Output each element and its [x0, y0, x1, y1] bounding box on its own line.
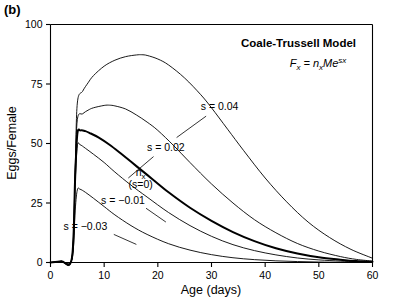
curve-sublabel-2: (s=0)	[129, 178, 153, 190]
y-tick-label: 25	[31, 197, 43, 209]
x-tick-label: 60	[367, 269, 379, 281]
formula-eq: =	[300, 57, 313, 69]
y-tick-label: 50	[31, 137, 43, 149]
y-axis-ticks: 0255075100	[25, 18, 51, 268]
y-tick-label: 0	[37, 256, 43, 268]
y-axis-title: Eggs/Female	[5, 106, 19, 180]
leader-line-3	[146, 208, 166, 222]
curve-labels: s = 0.04s = 0.02nx(s=0)s = −0.01s = −0.0…	[63, 100, 238, 232]
y-tick-label: 100	[25, 18, 43, 30]
x-tick-label: 10	[98, 269, 110, 281]
curve-label-0: s = 0.04	[201, 100, 239, 112]
formula-exponent: sx	[338, 56, 347, 65]
leader-line-0	[177, 116, 207, 137]
data-curves	[51, 55, 373, 266]
y-tick-label: 75	[31, 78, 43, 90]
x-tick-label: 50	[313, 269, 325, 281]
chart-svg: 0102030405060 0255075100 s = 0.04s = 0.0…	[0, 0, 393, 301]
x-tick-label: 30	[206, 269, 218, 281]
curve-label-1: s = 0.02	[147, 141, 185, 153]
curve-series-3	[51, 143, 373, 265]
formula-Me: Me	[323, 57, 338, 69]
leader-line-4	[114, 234, 137, 244]
model-title: Coale-Trussell Model	[241, 37, 356, 49]
x-tick-label: 40	[259, 269, 271, 281]
curve-series-1	[51, 105, 373, 265]
x-tick-label: 20	[152, 269, 164, 281]
figure-panel: (b) 0102030405060 0255075100 s = 0.04s =…	[0, 0, 393, 301]
x-tick-label: 0	[48, 269, 54, 281]
curve-label-3: s = −0.01	[101, 194, 145, 206]
x-axis-title: Age (days)	[181, 283, 241, 297]
curve-series-2	[51, 129, 373, 264]
curve-label-4: s = −0.03	[63, 220, 107, 232]
curve-series-0	[51, 55, 373, 266]
model-formula: Fx = nxMesx	[290, 56, 348, 72]
x-axis-ticks: 0102030405060	[48, 263, 379, 281]
